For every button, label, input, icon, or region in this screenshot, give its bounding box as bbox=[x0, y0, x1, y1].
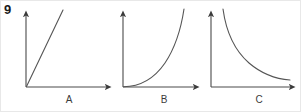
graph-panel-a: A bbox=[11, 1, 117, 112]
curve-a-linear bbox=[27, 10, 64, 87]
graph-label-b: B bbox=[161, 94, 168, 105]
graph-panel-b: B bbox=[109, 1, 205, 112]
curve-b-exponential bbox=[124, 9, 185, 87]
figure-container: 9 A bbox=[0, 0, 301, 112]
graph-label-a: A bbox=[66, 94, 73, 105]
curve-c-inverse bbox=[223, 9, 290, 80]
graph-a-svg: A bbox=[11, 1, 117, 112]
graph-b-svg: B bbox=[109, 1, 205, 112]
graph-panel-c: C bbox=[197, 1, 301, 112]
graph-c-svg: C bbox=[197, 1, 301, 112]
graph-label-c: C bbox=[255, 94, 262, 105]
